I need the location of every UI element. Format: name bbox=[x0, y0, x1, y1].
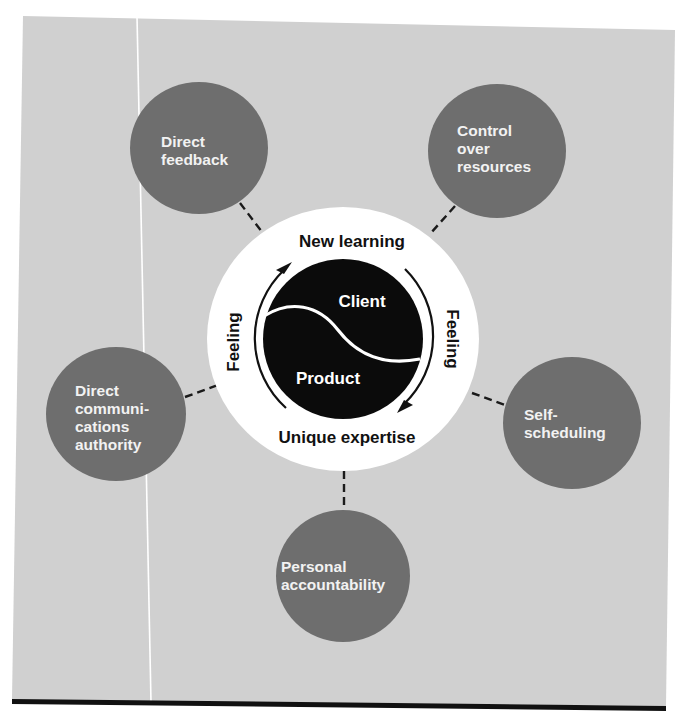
satellite-personal-accountability: Personal accountability bbox=[276, 510, 410, 642]
satellite-direct-communications-authority: Direct communi- cations authority bbox=[46, 347, 186, 481]
ring-label-top: New learning bbox=[299, 232, 405, 251]
center-hub: Client Product New learning Unique exper… bbox=[207, 207, 479, 471]
ring-label-bottom: Unique expertise bbox=[279, 428, 416, 447]
satellite-self-scheduling: Self- scheduling bbox=[503, 357, 641, 489]
satellite-circle bbox=[503, 357, 641, 489]
core-label-product: Product bbox=[296, 369, 361, 388]
satellite-circle bbox=[428, 84, 566, 218]
center-core bbox=[263, 259, 423, 419]
satellite-direct-feedback: Direct feedback bbox=[130, 82, 268, 214]
satellite-control-over-resources: Control over resources bbox=[428, 84, 566, 218]
ring-label-left: Feeling bbox=[224, 312, 243, 372]
ring-label-right: Feeling bbox=[443, 309, 462, 369]
job-enrichment-diagram: Direct feedback Control over resources D… bbox=[0, 0, 688, 719]
core-label-client: Client bbox=[338, 292, 386, 311]
